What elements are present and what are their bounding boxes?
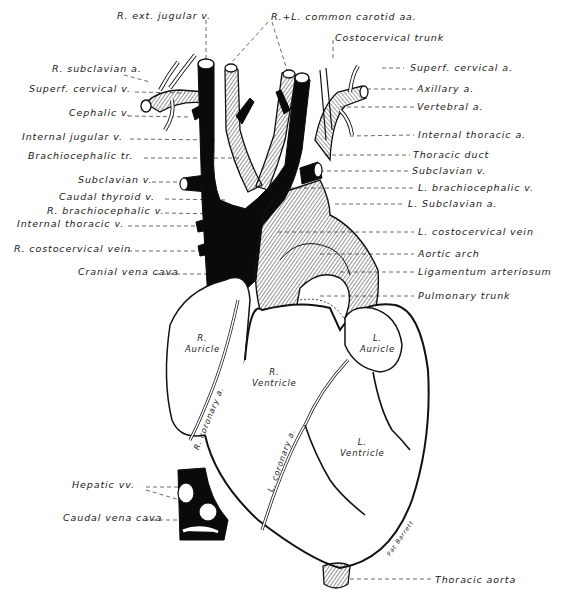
label-l-costocervical-vein: L. costocervical vein xyxy=(418,226,534,237)
aortic-arch xyxy=(255,180,378,320)
label-internal-jugular-v: Internal jugular v. xyxy=(22,131,123,142)
label-internal-thoracic-a: Internal thoracic a. xyxy=(418,129,526,140)
label-aortic-arch: Aortic arch xyxy=(418,248,480,259)
label-r-ventricle: R. Ventricle xyxy=(252,367,297,389)
label-internal-thoracic-v: Internal thoracic v. xyxy=(17,218,124,229)
l-ventricle-line-1: L. xyxy=(340,437,385,448)
label-ligamentum-arteriosum: Ligamentum arteriosum xyxy=(418,266,552,277)
label-subclavian-v-left: Subclavian v. xyxy=(78,174,152,185)
label-thoracic-aorta: Thoracic aorta xyxy=(435,574,516,585)
label-pulmonary-trunk: Pulmonary trunk xyxy=(418,290,511,301)
l-auricle-line-2: Auricle xyxy=(360,344,395,355)
label-subclavian-v-right: Subclavian v. xyxy=(412,165,486,176)
label-axillary-a: Axillary a. xyxy=(417,83,474,94)
l-subclavian-branches xyxy=(315,66,368,160)
label-l-subclavian-a: L. Subclavian a. xyxy=(408,198,497,209)
label-r-subclavian-a: R. subclavian a. xyxy=(52,63,142,74)
label-r-auricle: R. Auricle xyxy=(185,333,220,355)
label-cranial-vena-cava: Cranial vena cava xyxy=(78,266,179,277)
label-l-auricle: L. Auricle xyxy=(360,333,395,355)
label-l-brachiocephalic-v: L. brachiocephalic v. xyxy=(418,182,534,193)
label-brachiocephalic-tr: Brachiocephalic tr. xyxy=(28,150,133,161)
label-r-costocervical-vein: R. costocervical vein xyxy=(14,243,131,254)
label-r-brachiocephalic-v: R. brachiocephalic v. xyxy=(47,205,164,216)
r-auricle-line-2: Auricle xyxy=(185,344,220,355)
label-r-ext-jugular-v: R. ext. jugular v. xyxy=(117,10,211,21)
label-superf-cervical-a: Superf. cervical a. xyxy=(410,62,513,73)
label-thoracic-duct: Thoracic duct xyxy=(413,149,489,160)
label-cephalic-v: Cephalic v. xyxy=(69,107,131,118)
label-r-l-common-carotid-aa: R.+L. common carotid aa. xyxy=(271,11,417,22)
r-ventricle-line-1: R. xyxy=(252,367,297,378)
label-caudal-vena-cava: Caudal vena cava xyxy=(63,512,162,523)
label-hepatic-vv: Hepatic vv. xyxy=(72,479,135,490)
r-auricle-line-1: R. xyxy=(185,333,220,344)
label-superf-cervical-v: Superf. cervical v. xyxy=(29,83,131,94)
l-ventricle-line-2: Ventricle xyxy=(340,448,385,459)
anatomy-figure: R. ext. jugular v. R. subclavian a. Supe… xyxy=(0,0,573,599)
r-ventricle-line-2: Ventricle xyxy=(252,378,297,389)
label-vertebral-a: Vertebral a. xyxy=(417,101,483,112)
label-caudal-thyroid-v: Caudal thyroid v. xyxy=(59,191,155,202)
label-l-ventricle: L. Ventricle xyxy=(340,437,385,459)
label-costocervical-trunk: Costocervical trunk xyxy=(335,32,444,43)
l-auricle-line-1: L. xyxy=(360,333,395,344)
